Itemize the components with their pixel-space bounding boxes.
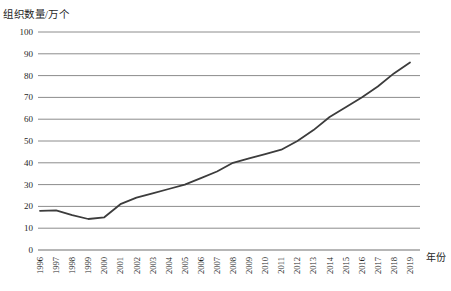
x-tick-label: 2007 (212, 257, 222, 274)
x-tick-label: 2017 (373, 257, 383, 274)
y-tick-label: 90 (24, 49, 34, 59)
x-axis-title: 年份 (426, 249, 446, 264)
y-tick-label: 60 (24, 114, 34, 124)
chart-page: 组织数量/万个 01020304050607080901001996199719… (0, 0, 451, 291)
x-tick-label: 2003 (148, 257, 158, 274)
x-tick-label: 2006 (196, 257, 206, 274)
x-tick-label: 2004 (164, 256, 174, 274)
y-tick-label: 100 (20, 27, 34, 37)
organization-count-line-chart: 0102030405060708090100199619971998199920… (0, 0, 451, 291)
y-tick-label: 30 (24, 180, 34, 190)
y-tick-label: 50 (24, 136, 34, 146)
y-tick-label: 10 (24, 223, 34, 233)
x-tick-label: 2000 (99, 257, 109, 274)
x-tick-label: 1998 (67, 257, 77, 274)
y-tick-label: 80 (24, 71, 34, 81)
x-tick-label: 1999 (83, 257, 93, 274)
x-tick-label: 2013 (308, 257, 318, 274)
x-tick-label: 2001 (115, 257, 125, 274)
x-tick-label: 2009 (244, 257, 254, 274)
y-tick-label: 0 (29, 245, 34, 255)
x-tick-label: 1997 (51, 257, 61, 274)
x-tick-label: 2011 (276, 257, 286, 274)
x-tick-label: 2010 (260, 257, 270, 274)
y-tick-label: 70 (24, 92, 34, 102)
x-tick-label: 2008 (228, 257, 238, 274)
x-tick-label: 1996 (35, 257, 45, 274)
y-tick-label: 20 (24, 201, 34, 211)
x-tick-label: 2018 (389, 257, 399, 274)
y-tick-label: 40 (24, 158, 34, 168)
x-tick-label: 2019 (405, 257, 415, 274)
x-tick-label: 2015 (341, 257, 351, 274)
x-tick-label: 2014 (325, 256, 335, 274)
x-tick-label: 2005 (180, 257, 190, 274)
x-tick-label: 2002 (132, 257, 142, 274)
x-tick-label: 2016 (357, 257, 367, 274)
x-tick-label: 2012 (292, 257, 302, 274)
